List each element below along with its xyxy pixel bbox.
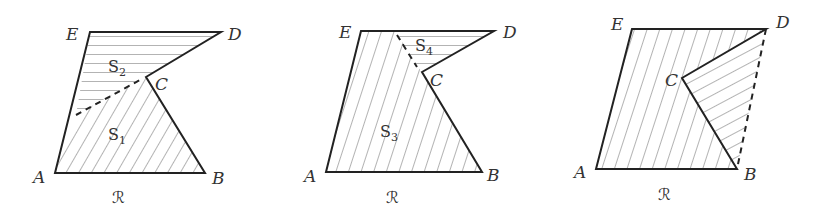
region-label: ℛ (658, 185, 671, 204)
polygon-decomposition-figure: A B C D E S2 S1 ℛ A B C D E S4 S3 ℛ A B … (0, 0, 816, 217)
panel-2: A B C D E S4 S3 ℛ (272, 0, 544, 217)
vertex-label-e: E (65, 24, 79, 44)
vertex-label-c: C (430, 70, 443, 90)
vertex-label-b: B (743, 164, 757, 184)
vertex-label-a: A (31, 167, 45, 187)
vertex-label-b: B (486, 165, 500, 185)
vertex-label-c: C (155, 74, 168, 94)
vertex-label-e: E (338, 22, 352, 42)
vertex-label-b: B (211, 168, 225, 188)
vertex-label-c: C (665, 70, 678, 90)
main-region-hatch (544, 0, 816, 217)
vertex-label-d: D (227, 24, 242, 44)
vertex-label-a: A (572, 162, 586, 182)
panel-1: A B C D E S2 S1 ℛ (0, 0, 272, 217)
region-label: ℛ (386, 188, 399, 207)
vertex-label-e: E (610, 14, 624, 34)
panel-3: A B C D E ℛ (544, 0, 816, 217)
vertex-label-d: D (502, 22, 517, 42)
vertex-label-d: D (775, 12, 790, 32)
vertex-label-a: A (302, 166, 316, 186)
region-label: ℛ (112, 188, 125, 207)
